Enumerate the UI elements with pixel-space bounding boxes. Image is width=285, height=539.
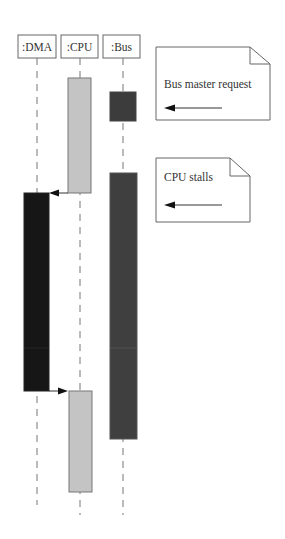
activation-dma [24, 193, 49, 391]
sequence-diagram: :DMA :CPU :Bus Bus master request CPU st [0, 0, 285, 539]
activation-cpu-2 [69, 391, 92, 492]
note-cpu-stalls-text: CPU stalls [164, 171, 213, 183]
participant-cpu: :CPU [61, 35, 98, 58]
activation-bus-1 [110, 92, 136, 121]
note-bus-master-request-text: Bus master request [164, 78, 252, 91]
activation-bus-2 [110, 173, 137, 439]
messages [49, 190, 68, 395]
participant-bus: :Bus [103, 35, 140, 58]
note-bus-master-request: Bus master request [156, 47, 270, 120]
participant-dma: :DMA [18, 35, 56, 58]
message-dma-to-cpu-arrowhead-icon [58, 388, 68, 395]
activation-cpu-1 [68, 78, 91, 193]
note-cpu-stalls: CPU stalls [156, 158, 250, 222]
message-cpu-to-dma-arrowhead-icon [49, 190, 59, 197]
participant-cpu-label: :CPU [67, 41, 93, 53]
participant-dma-label: :DMA [22, 41, 53, 53]
participant-bus-label: :Bus [111, 41, 133, 53]
